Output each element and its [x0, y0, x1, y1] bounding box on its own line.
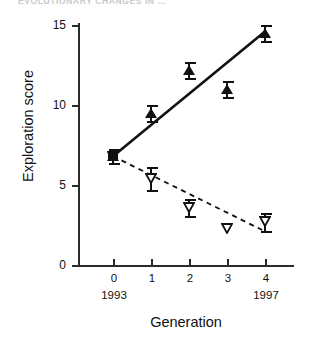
error-bar-cap-upper: [185, 199, 196, 201]
open-triangle-down-icon: [145, 173, 157, 184]
error-bar-cap-upper: [147, 105, 158, 107]
error-bar-cap-lower: [261, 231, 272, 233]
open-triangle-down-icon: [221, 223, 233, 234]
error-bar-cap-upper: [261, 213, 272, 215]
figure-panel: EVOLUTIONARY CHANGES IN ... 15 10 5 0 0 …: [0, 0, 319, 343]
error-bar-cap-upper: [223, 81, 234, 83]
origin-point-glyph: [108, 151, 118, 161]
filled-triangle-up-icon: [221, 84, 233, 94]
error-bar-cap-lower: [147, 121, 158, 123]
dashed-regression-line: [113, 156, 265, 231]
open-triangle-down-icon: [259, 216, 271, 227]
error-bar-cap-lower: [185, 216, 196, 218]
error-bar-cap-lower: [185, 78, 196, 80]
series-lines: [0, 0, 319, 343]
filled-triangle-up-icon: [259, 28, 271, 38]
error-bar-cap-lower: [223, 97, 234, 99]
error-bar-cap-upper: [185, 62, 196, 64]
error-bar-cap-lower: [147, 190, 158, 192]
filled-triangle-up-icon: [145, 108, 157, 118]
error-bar-cap-lower: [109, 163, 120, 165]
solid-regression-line: [113, 31, 265, 156]
error-bar-cap-upper: [147, 167, 158, 169]
error-bar-cap-lower: [261, 41, 272, 43]
filled-triangle-up-icon: [183, 65, 195, 75]
error-bar-cap-upper: [261, 25, 272, 27]
open-triangle-down-icon: [183, 202, 195, 213]
